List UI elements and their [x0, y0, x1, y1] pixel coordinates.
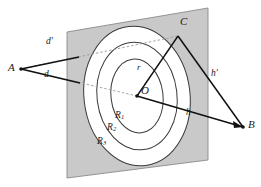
label-ring-R1-subscript: 1: [121, 113, 124, 120]
label-ring-R2-subscript: 2: [113, 125, 116, 132]
label-ring-R3-subscript: 3: [103, 139, 106, 146]
point-A-dot: [19, 67, 23, 71]
label-ring-R1: R1: [115, 111, 124, 121]
label-segment-h: h: [186, 108, 191, 118]
point-B-dot: [241, 125, 245, 129]
geometry-diagram-svg: [0, 0, 261, 187]
point-O-dot: [135, 94, 139, 98]
label-ring-R1-text: R: [115, 110, 121, 120]
label-ring-R2-text: R: [107, 122, 113, 132]
figure-canvas: A B C O d' d h' h r R1 R2 R3: [0, 0, 261, 187]
label-segment-r: r: [137, 63, 141, 72]
label-point-C: C: [180, 16, 187, 27]
label-segment-d-prime: d': [46, 37, 53, 47]
label-point-B: B: [248, 119, 255, 130]
label-ring-R3: R3: [97, 137, 106, 147]
label-segment-h-prime: h': [211, 69, 218, 79]
label-ring-R3-text: R: [97, 136, 103, 146]
label-point-O: O: [141, 85, 149, 96]
label-ring-R2: R2: [107, 123, 116, 133]
label-point-A: A: [8, 62, 15, 73]
label-segment-d: d: [44, 70, 49, 80]
